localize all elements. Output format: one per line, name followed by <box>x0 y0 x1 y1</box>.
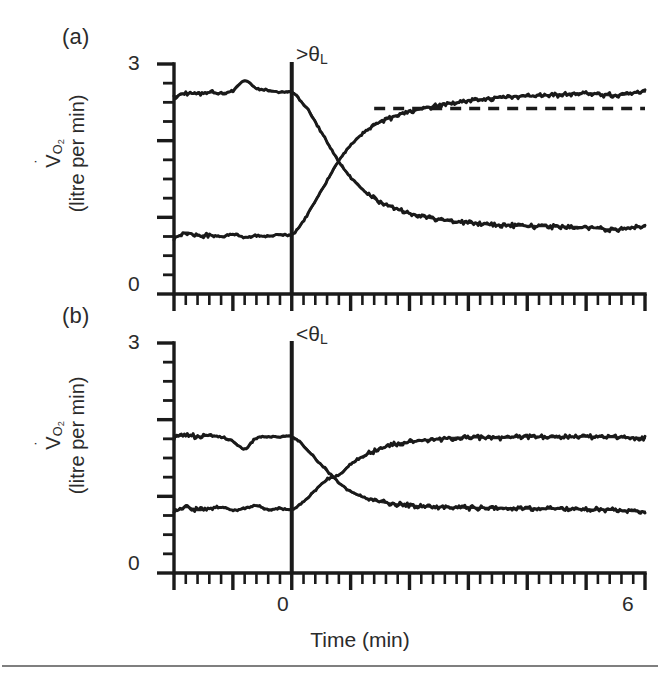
y-tick-label-b-max: 3 <box>128 330 140 354</box>
y-axis-sub-b: O <box>50 426 65 436</box>
y-tick-label-a-min: 0 <box>128 272 140 296</box>
y-axis-units-a: (litre per min) <box>66 38 88 268</box>
x-axis-title: Time (min) <box>0 628 660 652</box>
threshold-prefix-b: < <box>296 322 308 345</box>
x-axis-title-text: Time (min) <box>250 628 410 651</box>
x-tick-label-max: 6 <box>622 592 634 616</box>
threshold-annotation-a: >θL <box>296 42 328 67</box>
y-axis-title-a: ˙VO2 (litre per min) <box>42 38 89 268</box>
figure-canvas <box>0 0 660 681</box>
panel-a-plot <box>157 62 645 311</box>
y-axis-sub2-a: 2 <box>56 139 66 144</box>
theta-subscript-a: L <box>320 51 328 67</box>
threshold-prefix-a: > <box>296 42 308 65</box>
figure-root: (a) (b) ˙VO2 (litre per min) ˙VO2 (litre… <box>0 0 660 681</box>
y-tick-label-a-max: 3 <box>128 51 140 75</box>
threshold-annotation-b: <θL <box>296 322 328 347</box>
y-axis-units-b: (litre per min) <box>66 320 88 550</box>
y-axis-sub-a: O <box>50 144 65 154</box>
theta-symbol-a: θ <box>308 42 320 65</box>
theta-subscript-b: L <box>320 331 328 347</box>
v-dot-accent-a: ˙ <box>34 158 50 163</box>
y-axis-sub2-b: 2 <box>56 421 66 426</box>
theta-symbol-b: θ <box>308 322 320 345</box>
panel-b-plot <box>157 341 645 590</box>
x-tick-label-zero: 0 <box>277 592 289 616</box>
y-axis-title-b: ˙VO2 (litre per min) <box>42 320 89 550</box>
y-tick-label-b-min: 0 <box>128 551 140 575</box>
v-dot-accent-b: ˙ <box>34 440 50 445</box>
